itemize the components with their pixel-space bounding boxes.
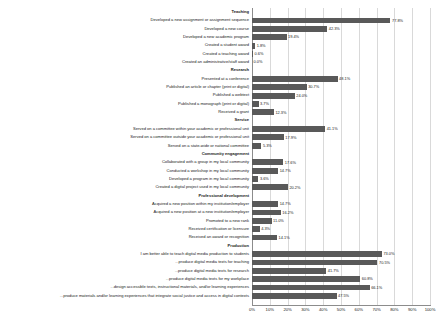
bar <box>252 93 295 99</box>
bar-value-label: 47.5% <box>338 292 349 300</box>
bar-row: Received a grant12.3% <box>0 108 438 116</box>
x-tick-label: 90% <box>408 307 416 312</box>
bar-row: Developed a program in my local communit… <box>0 175 438 183</box>
bar-row: Acquired a new position at a new institu… <box>0 208 438 216</box>
bar-value-label: 3.7% <box>260 100 269 108</box>
bar-row: Published a webtext24.0% <box>0 91 438 99</box>
bar-row: Conducted a workshop in my local communi… <box>0 167 438 175</box>
bar-category-label: Served on a state-wide or national commi… <box>168 142 249 150</box>
bar <box>252 109 274 115</box>
bar <box>252 134 284 140</box>
bar-value-label: 42.3% <box>329 25 340 33</box>
bar <box>252 176 258 182</box>
bar-value-label: 66.1% <box>371 284 382 292</box>
x-tick-label: 40% <box>319 307 327 312</box>
bar-value-label: 5.3% <box>263 142 272 150</box>
bar-value-label: 17.9% <box>285 134 296 142</box>
bar-value-label: 14.1% <box>279 234 290 242</box>
bar <box>252 285 370 291</box>
bar <box>252 235 277 241</box>
bar-category-label: Received an award or recognition <box>189 233 249 241</box>
bar-value-label: 12.3% <box>275 109 286 117</box>
bar <box>252 126 325 132</box>
bar-category-label: ...produce digital media texts for my wo… <box>166 275 249 283</box>
bar-category-label: Developed a program in my local communit… <box>169 175 249 183</box>
bar-value-label: 0.0% <box>254 58 263 66</box>
survey-results-bar-chart: TeachingDeveloped a new assignment or as… <box>0 0 438 332</box>
bar-row: Collaborated with a group in my local co… <box>0 158 438 166</box>
bar-category-label: Created a teaching award <box>203 50 249 58</box>
bar-value-label: 4.3% <box>261 225 270 233</box>
x-tick-label: 30% <box>301 307 309 312</box>
bar-row: Served on a state-wide or national commi… <box>0 142 438 150</box>
bar-row: Developed a new academic program19.4% <box>0 33 438 41</box>
bar-row: Received an award or recognition14.1% <box>0 233 438 241</box>
bar <box>252 101 259 107</box>
bar <box>252 26 327 32</box>
group-header-row: Community engagement <box>0 150 438 158</box>
bar-row: Developed a new course42.3% <box>0 25 438 33</box>
bar-value-label: 1.8% <box>257 42 266 50</box>
bar <box>252 18 390 24</box>
bar-category-label: Received certification or licensure <box>188 225 249 233</box>
bar-row: Created a digital project used in my loc… <box>0 183 438 191</box>
bar-row: Acquired a new position within my instit… <box>0 200 438 208</box>
x-tick-label: 10% <box>266 307 274 312</box>
group-header-label: Service <box>235 116 249 124</box>
bar <box>252 210 281 216</box>
x-tick-label: 60% <box>355 307 363 312</box>
bar <box>252 260 377 266</box>
bar <box>252 43 255 49</box>
bar-category-label: Conducted a workshop in my local communi… <box>167 167 249 175</box>
bar-value-label: 77.8% <box>392 17 403 25</box>
bar-category-label: I am better able to teach digital media … <box>141 250 249 258</box>
bar-value-label: 73.0% <box>383 250 394 258</box>
bar-row: Created a student award1.8% <box>0 41 438 49</box>
x-tick-label: 70% <box>372 307 380 312</box>
bar <box>252 226 260 232</box>
bar-row: ...produce digital media texts for my wo… <box>0 275 438 283</box>
bar-category-label: Acquired a new position at a new institu… <box>154 208 249 216</box>
bar <box>252 218 272 224</box>
x-tick-label: 0% <box>249 307 255 312</box>
bar <box>252 251 382 257</box>
bar-category-label: Acquired a new position within my instit… <box>152 200 249 208</box>
bar-category-label: Collaborated with a group in my local co… <box>162 158 249 166</box>
bar-value-label: 70.5% <box>379 259 390 267</box>
bar-category-label: ...design accessible texts, instructiona… <box>110 283 249 291</box>
bar-category-label: Presented at a conference <box>201 75 249 83</box>
bar-value-label: 11.0% <box>273 217 284 225</box>
plot-area: TeachingDeveloped a new assignment or as… <box>0 0 438 332</box>
bar-row: Received certification or licensure4.3% <box>0 225 438 233</box>
bar <box>252 293 337 299</box>
bar-row: Published a monograph (print or digital)… <box>0 100 438 108</box>
bar-category-label: Published a webtext <box>213 91 249 99</box>
x-tick-label: 50% <box>337 307 345 312</box>
bar-value-label: 30.7% <box>308 83 319 91</box>
bar-category-label: Promoted to a new rank <box>206 217 249 225</box>
bar-row: Published an article or chapter (print o… <box>0 83 438 91</box>
bar-row: Created an administrative/staff award0.0… <box>0 58 438 66</box>
bar <box>252 51 253 57</box>
bar-category-label: Served on a committee within your academ… <box>133 125 249 133</box>
bar <box>252 168 278 174</box>
x-tick-label: 100% <box>425 307 436 312</box>
bar-category-label: Received a grant <box>218 108 249 116</box>
group-header-label: Production <box>228 242 249 250</box>
bar-row: Promoted to a new rank11.0% <box>0 217 438 225</box>
group-header-label: Community engagement <box>202 150 249 158</box>
group-header-label: Research <box>231 66 249 74</box>
bar-value-label: 17.6% <box>285 159 296 167</box>
bar-row: Developed a new assignment or assignment… <box>0 16 438 24</box>
bar-value-label: 41.1% <box>327 125 338 133</box>
bar <box>252 276 360 282</box>
bar-value-label: 16.2% <box>282 209 293 217</box>
bar-row: Served on a committee outside your acade… <box>0 133 438 141</box>
bar <box>252 201 278 207</box>
group-header-row: Research <box>0 66 438 74</box>
bar-row: ...produce materials and/or learning exp… <box>0 292 438 300</box>
bar-category-label: Developed a new assignment or assignment… <box>151 16 249 24</box>
bar-row: ...design accessible texts, instructiona… <box>0 283 438 291</box>
bar-value-label: 3.6% <box>260 175 269 183</box>
bar-category-label: ...produce digital media texts for teach… <box>175 258 249 266</box>
